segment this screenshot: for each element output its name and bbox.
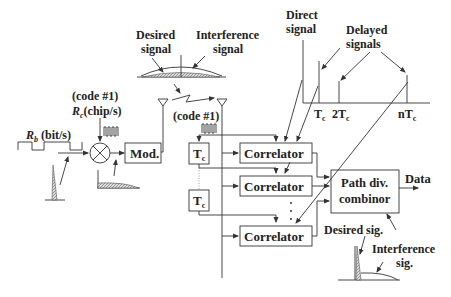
direct-pointer	[322, 48, 340, 69]
spectrum-to-air-arrow	[174, 84, 180, 93]
correlator-3-label: Correlator	[244, 229, 304, 244]
radio-link-icon	[172, 95, 214, 102]
code-tx-label: (code #1)	[72, 89, 118, 103]
narrowband-pointer	[60, 157, 68, 185]
corr1-to-combiner	[312, 153, 329, 177]
ellipsis-dots	[290, 202, 292, 220]
tick-ntc: nTc	[398, 107, 417, 123]
interference-sig-label: Interferencesig.	[372, 242, 436, 270]
chip-waveform-icon	[104, 127, 118, 136]
bit-waveform-icon	[18, 142, 82, 150]
modulator-label: Mod.	[130, 146, 159, 161]
rake-receiver-diagram: Desiredsignal Interferencesignal (code #…	[0, 0, 451, 297]
delay-to-corr2	[285, 162, 290, 173]
narrowband-spectrum-icon	[45, 165, 65, 200]
tick-tc: Tc	[314, 107, 326, 123]
interference-signal-label: Interferencesignal	[196, 28, 260, 56]
spread-pointer	[114, 160, 116, 176]
interference-pointer	[193, 56, 205, 68]
data-output-label: Data	[405, 172, 431, 186]
correlator-2-label: Correlator	[244, 179, 304, 194]
rc-label: Rc(chip/s)	[71, 104, 122, 120]
rx-antenna-icon	[217, 99, 227, 278]
rx-chip-waveform-icon	[202, 124, 216, 133]
direct-signal-label: Directsignal	[286, 8, 318, 36]
code-line-corr2	[199, 164, 276, 173]
spread-spectrum-icon	[97, 170, 140, 188]
delayed-signals-label: Delayedsignals	[346, 23, 388, 51]
spectrum-desired-interference	[137, 55, 226, 77]
correlator-1-label: Correlator	[244, 146, 304, 161]
spectrum-to-combiner-arrow	[387, 214, 396, 230]
desired-sig-pointer	[360, 236, 365, 254]
tick-2tc: 2Tc	[332, 107, 350, 123]
delayed-pointer-n	[381, 52, 405, 72]
desired-sig-label: Desired sig.	[324, 223, 383, 237]
interference-sig-pointer	[377, 262, 383, 272]
direct-to-corr1	[285, 80, 302, 141]
delayed-pointer-1	[341, 52, 370, 80]
code-line-corr1	[199, 135, 276, 141]
code-rx-label: (code #1)	[173, 109, 219, 123]
multiplier-icon	[90, 143, 110, 163]
desired-signal-label: Desiredsignal	[136, 28, 175, 56]
code-line-corr3	[199, 211, 276, 222]
